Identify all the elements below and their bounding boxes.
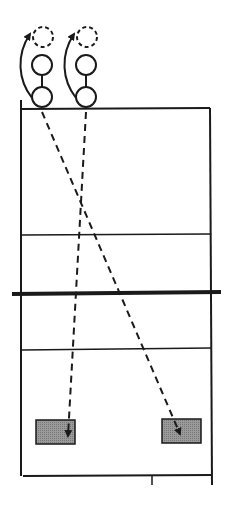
court-top-endline — [21, 108, 210, 109]
net — [12, 292, 221, 294]
player-circle-bottom — [32, 87, 52, 107]
player-1 — [20, 27, 53, 107]
serve-trajectory-line — [68, 112, 86, 436]
attack-line-top — [21, 234, 210, 235]
volleyball-court-diagram — [0, 0, 229, 510]
rotation-arrow-icon — [20, 34, 32, 98]
attack-line-bottom — [22, 348, 211, 350]
court-bottom-endline — [23, 475, 212, 476]
target-zone-right — [162, 419, 201, 443]
rotation-arrow-icon — [64, 34, 76, 98]
court-right-sideline — [210, 108, 212, 485]
player-2 — [64, 27, 97, 107]
player-circle-ghost — [33, 27, 53, 47]
player-circle-bottom — [76, 87, 96, 107]
serve-trajectory-cross — [42, 112, 180, 434]
player-circle-top — [32, 55, 52, 75]
player-circle-top — [76, 55, 96, 75]
player-circle-ghost — [77, 27, 97, 47]
